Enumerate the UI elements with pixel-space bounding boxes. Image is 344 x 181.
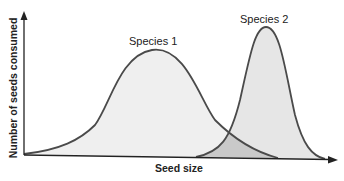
species1-label: Species 1 <box>129 35 177 47</box>
chart-canvas <box>0 0 344 181</box>
y-axis-label: Number of seeds consumed <box>7 13 19 163</box>
y-axis-arrow-icon <box>21 11 28 20</box>
species2-label: Species 2 <box>240 13 288 25</box>
x-axis-arrow-icon <box>328 156 338 164</box>
x-axis-label: Seed size <box>155 162 203 174</box>
